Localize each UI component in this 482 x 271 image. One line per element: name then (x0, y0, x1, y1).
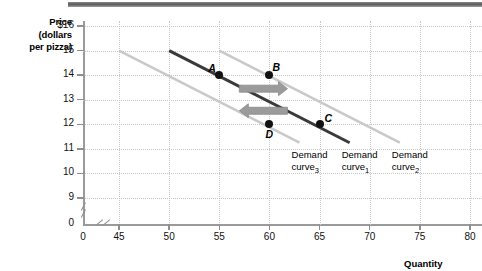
demand-curve-label: Demandcurve1 (342, 149, 378, 176)
demand-curves (0, 0, 482, 271)
demand-curve-label-line1: Demand (292, 149, 328, 161)
data-point-label-b: B (272, 61, 280, 73)
demand-curve-label-line2: curve3 (292, 161, 328, 176)
shift-right-arrow (239, 82, 287, 96)
demand-curve-label-line1: Demand (392, 149, 428, 161)
data-point-c (316, 120, 324, 128)
chart-root: Price (dollars per pizza) Quantity $1615… (0, 0, 482, 271)
demand-curve-label: Demandcurve2 (392, 149, 428, 176)
demand-curve-label: Demandcurve3 (292, 149, 328, 176)
demand-curve-line (219, 51, 400, 143)
demand-curve-line (169, 51, 350, 143)
data-point-label-d: D (265, 128, 273, 140)
demand-curve-label-line1: Demand (342, 149, 378, 161)
data-point-label-c: C (325, 112, 333, 124)
demand-curve-label-line2: curve2 (392, 161, 428, 176)
data-point-label-a: A (208, 62, 216, 74)
demand-curve-label-line2: curve1 (342, 161, 378, 176)
